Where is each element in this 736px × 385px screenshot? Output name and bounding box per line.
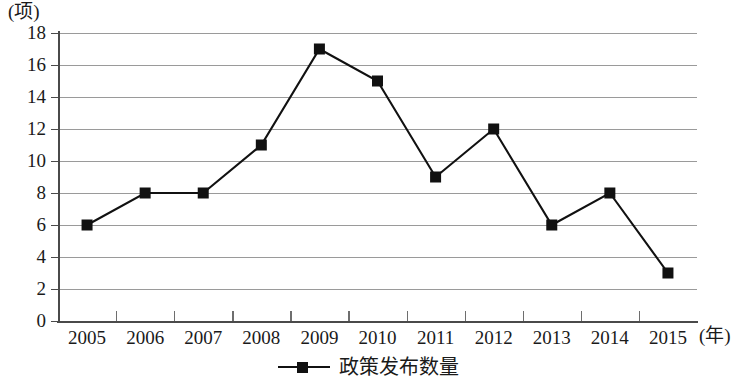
data-point-marker [662,268,673,279]
data-point-marker [604,188,615,199]
series-policy-count [0,0,736,385]
data-point-marker [314,44,325,55]
data-point-marker [546,220,557,231]
data-point-marker [372,76,383,87]
line-chart: (项) 024681012141618 20052006200720082009… [0,0,736,385]
legend-marker-icon [278,360,330,374]
data-point-marker [256,140,267,151]
data-point-marker [82,220,93,231]
data-point-marker [198,188,209,199]
data-point-marker [430,172,441,183]
data-point-marker [488,124,499,135]
chart-legend: 政策发布数量 [0,356,736,378]
x-axis-unit-label: (年) [699,325,731,347]
legend-label: 政策发布数量 [339,356,459,378]
data-point-marker [140,188,151,199]
